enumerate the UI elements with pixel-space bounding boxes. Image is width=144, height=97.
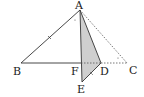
label-b: B — [13, 65, 21, 78]
label-c: C — [129, 64, 137, 77]
shaded-triangle-ade — [80, 10, 101, 82]
angle-mark-c — [117, 57, 118, 58]
label-e: E — [77, 83, 85, 96]
label-a: A — [74, 0, 84, 12]
label-d: D — [100, 65, 109, 78]
geometry-diagram: A B F D C E — [0, 0, 144, 97]
segment-ab — [21, 10, 80, 63]
angle-mark-a — [74, 19, 75, 20]
label-f: F — [71, 65, 79, 78]
